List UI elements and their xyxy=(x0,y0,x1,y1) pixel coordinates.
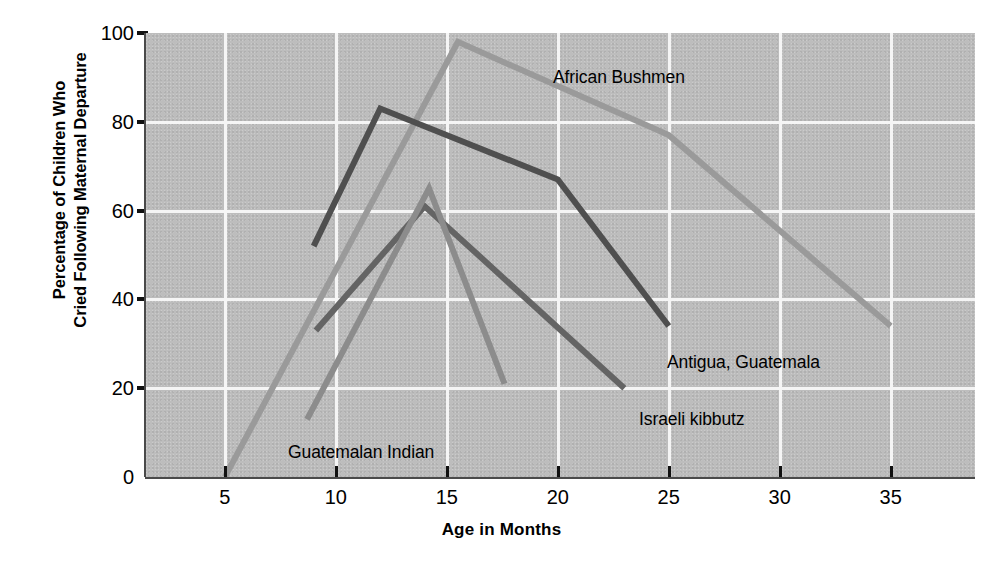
series-lines xyxy=(145,33,975,477)
x-tick-label: 20 xyxy=(528,486,588,509)
series-label-african-bushmen: African Bushmen xyxy=(553,67,685,88)
x-tick-mark xyxy=(224,466,227,477)
y-tick-label: 100 xyxy=(88,22,134,45)
x-tick-mark xyxy=(890,466,893,477)
y-tick-label: 20 xyxy=(88,377,134,400)
y-tick-label: 40 xyxy=(88,288,134,311)
x-tick-label: 5 xyxy=(195,486,255,509)
y-axis-tick-labels: 020406080100 xyxy=(84,0,134,565)
chart-figure: Percentage of Children Who Cried Followi… xyxy=(0,0,1003,565)
x-axis-line xyxy=(145,477,975,479)
plot-area xyxy=(145,33,975,477)
x-tick-mark xyxy=(335,466,338,477)
series-line xyxy=(225,42,891,477)
series-label-antigua-guatemala: Antigua, Guatemala xyxy=(667,352,820,373)
x-tick-label: 15 xyxy=(417,486,477,509)
y-axis-line xyxy=(144,33,146,477)
y-tick-label: 60 xyxy=(88,199,134,222)
x-tick-label: 10 xyxy=(306,486,366,509)
x-tick-mark xyxy=(668,466,671,477)
series-label-guatemalan-indian: Guatemalan Indian xyxy=(288,442,434,463)
y-tick-label: 0 xyxy=(88,466,134,489)
series-label-israeli-kibbutz: Israeli kibbutz xyxy=(639,409,745,430)
x-tick-mark xyxy=(557,466,560,477)
x-tick-mark xyxy=(779,466,782,477)
x-axis-title: Age in Months xyxy=(0,520,1003,540)
x-tick-label: 25 xyxy=(639,486,699,509)
x-tick-label: 30 xyxy=(750,486,810,509)
y-tick-label: 80 xyxy=(88,110,134,133)
x-tick-label: 35 xyxy=(861,486,921,509)
x-tick-mark xyxy=(446,466,449,477)
